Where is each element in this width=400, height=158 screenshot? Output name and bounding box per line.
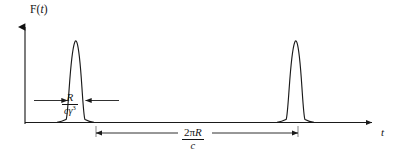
pulse-width-denominator: cγ3 [62,105,78,117]
x-axis-label: t [381,127,384,138]
figure-container: F(t) t R cγ3 2πR c [0,0,400,158]
period-numerator: 2πR [182,126,204,140]
pulse-curve-2 [277,41,314,122]
period-label: 2πR c [182,126,204,152]
period-numerator-var: R [195,126,202,138]
period-numerator-pi: 2π [184,126,195,138]
pulse-width-denominator-exponent: 3 [72,103,75,110]
period-fraction: 2πR c [182,126,204,152]
period-denominator: c [182,140,204,153]
y-axis-label-paren-close: ) [44,3,48,15]
pulse-width-label: R cγ3 [62,91,78,117]
pulse-width-fraction: R cγ3 [62,91,78,117]
y-axis-label: F(t) [30,4,48,16]
pulse-2 [277,41,314,122]
